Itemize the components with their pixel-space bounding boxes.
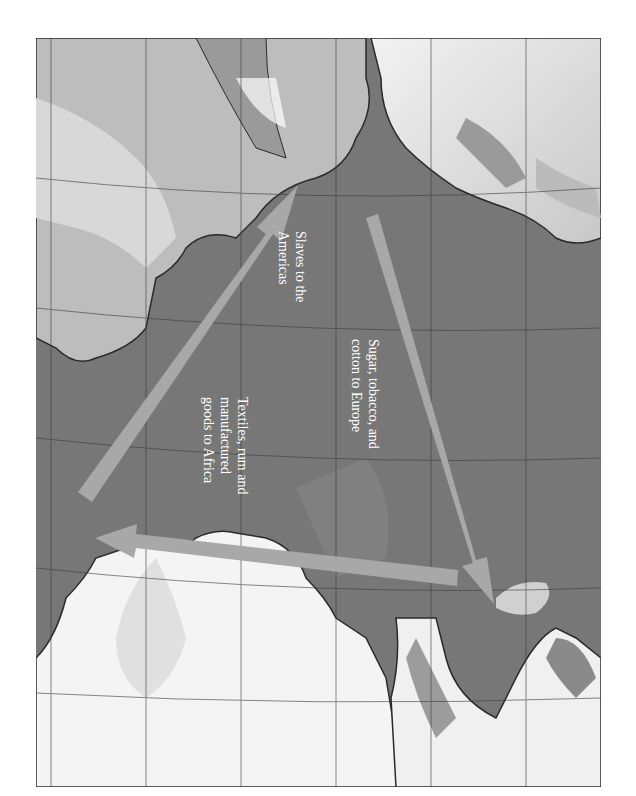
label-textiles-rum-goods: Textiles, rum and manufactured goods to … xyxy=(200,397,251,494)
atlantic-trade-map: Slaves to the Americas Sugar, tobacco, a… xyxy=(36,38,601,787)
label-slaves-to-americas: Slaves to the Americas xyxy=(275,231,309,303)
map-graphic xyxy=(36,38,601,787)
label-sugar-tobacco-cotton: Sugar, tobacco, and cotton to Europe xyxy=(348,339,382,449)
